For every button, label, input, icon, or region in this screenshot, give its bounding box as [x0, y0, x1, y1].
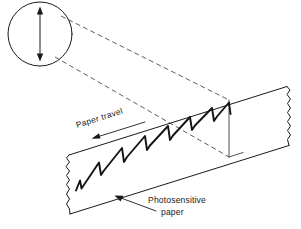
photosensitive-paper-annotation: Photosensitive paper [115, 195, 207, 217]
paper-travel-label: Paper travel [75, 106, 125, 130]
stylus-position-line [229, 100, 243, 157]
arrow-head-up-icon [37, 7, 43, 15]
arrow-head-down-icon [37, 54, 43, 62]
projection-line-lower [55, 57, 229, 157]
projection-line-upper [61, 16, 229, 100]
paper-travel-arrow-head-icon [92, 133, 101, 139]
magnification-projection [55, 16, 229, 157]
stylus-oscillation-arrow [37, 7, 43, 62]
paper-right-torn-edge [287, 87, 291, 146]
stylus-base-line [229, 153, 243, 158]
paper-left-torn-edge [66, 155, 70, 214]
photosensitive-label-line1: Photosensitive [148, 195, 206, 205]
figure-canvas: Paper travel Photosensitive paper [0, 0, 301, 229]
diagram-svg: Paper travel Photosensitive paper [0, 0, 301, 229]
paper-travel-annotation: Paper travel [75, 106, 145, 139]
photosensitive-label-line2: paper [161, 207, 184, 217]
paper-travel-arrow-shaft [97, 122, 145, 137]
magnified-stylus-detail [8, 2, 72, 66]
